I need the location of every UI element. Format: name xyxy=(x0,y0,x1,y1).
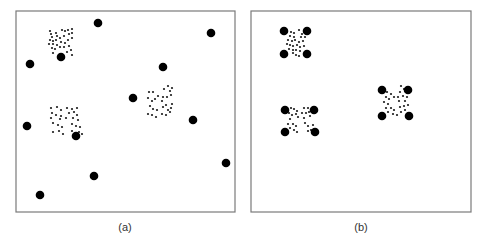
small-dot xyxy=(52,40,54,42)
small-dot xyxy=(71,130,73,132)
small-dot xyxy=(75,125,77,127)
small-dot xyxy=(403,105,405,107)
small-dot xyxy=(59,37,61,39)
small-dot xyxy=(388,98,390,100)
large-dot xyxy=(405,112,414,121)
large-dot xyxy=(303,50,312,59)
small-dot xyxy=(398,100,400,102)
small-dot xyxy=(293,36,295,38)
large-dot xyxy=(23,122,32,131)
small-dot xyxy=(302,40,304,42)
small-dot xyxy=(59,46,61,48)
small-dot xyxy=(68,45,70,47)
large-dot xyxy=(36,191,45,200)
small-dot xyxy=(393,109,395,111)
small-dot xyxy=(61,29,63,31)
small-dot xyxy=(51,47,53,49)
small-dot xyxy=(49,30,51,32)
small-dot xyxy=(297,116,299,118)
small-dot xyxy=(148,91,150,93)
small-dot xyxy=(170,94,172,96)
small-dot xyxy=(392,113,394,115)
small-dot xyxy=(307,107,309,109)
small-dot xyxy=(151,114,153,116)
small-dot xyxy=(400,111,402,113)
small-dot xyxy=(62,133,64,135)
large-dot xyxy=(311,128,320,137)
small-dot xyxy=(60,41,62,43)
small-dot xyxy=(61,126,63,128)
small-dot xyxy=(56,44,58,46)
large-dot xyxy=(129,94,138,103)
small-dot xyxy=(295,113,297,115)
small-dot xyxy=(312,124,314,126)
large-dot xyxy=(378,86,387,95)
small-dot xyxy=(304,122,306,124)
small-dot xyxy=(71,37,73,39)
small-dot xyxy=(68,112,70,114)
small-dot xyxy=(171,103,173,105)
small-dot xyxy=(65,117,67,119)
small-dot xyxy=(171,87,173,89)
small-dot xyxy=(402,95,404,97)
small-dot xyxy=(56,35,58,37)
small-dot xyxy=(71,123,73,125)
small-dot xyxy=(154,98,156,100)
small-dot xyxy=(299,46,301,48)
small-dot xyxy=(300,36,302,38)
small-dot xyxy=(301,33,303,35)
small-dot xyxy=(147,113,149,115)
panel-a-frame xyxy=(16,11,235,212)
small-dot xyxy=(71,54,73,56)
small-dot xyxy=(385,96,387,98)
small-dot xyxy=(56,106,58,108)
large-dot xyxy=(94,19,103,28)
small-dot xyxy=(60,115,62,117)
small-dot xyxy=(147,97,149,99)
small-dot xyxy=(407,104,409,106)
small-dot xyxy=(166,96,168,98)
large-dot xyxy=(280,27,289,36)
small-dot xyxy=(305,112,307,114)
small-dot xyxy=(303,117,305,119)
small-dot xyxy=(292,52,294,54)
small-dot xyxy=(170,107,172,109)
small-dot xyxy=(400,85,402,87)
large-dot xyxy=(159,63,168,72)
small-dot xyxy=(81,133,83,135)
small-dot xyxy=(301,112,303,114)
small-dot xyxy=(157,95,159,97)
panel-b: (b) xyxy=(251,11,471,233)
small-dot xyxy=(286,43,288,45)
small-dot xyxy=(307,125,309,127)
small-dot xyxy=(303,45,305,47)
small-dot xyxy=(387,103,389,105)
small-dot xyxy=(289,35,291,37)
small-dot xyxy=(52,43,54,45)
small-dot xyxy=(151,100,153,102)
small-dot xyxy=(288,48,290,50)
small-dot xyxy=(162,96,164,98)
small-dot xyxy=(57,124,59,126)
small-dot xyxy=(292,45,294,47)
small-dot xyxy=(169,111,171,113)
large-dot xyxy=(207,29,216,38)
small-dot xyxy=(55,114,57,116)
small-dot xyxy=(387,111,389,113)
small-dot xyxy=(289,118,291,120)
small-dot xyxy=(76,107,78,109)
small-dot xyxy=(50,107,52,109)
small-dot xyxy=(299,50,301,52)
small-dot xyxy=(406,96,408,98)
panel-b-caption: (b) xyxy=(354,221,367,233)
small-dot xyxy=(163,88,165,90)
small-dot xyxy=(55,32,57,34)
small-dot xyxy=(293,129,295,131)
small-dot xyxy=(399,106,401,108)
small-dot xyxy=(54,48,56,50)
small-dot xyxy=(71,32,73,34)
small-dot xyxy=(70,49,72,51)
small-dot xyxy=(72,117,74,119)
small-dot xyxy=(50,117,52,119)
small-dot xyxy=(293,108,295,110)
